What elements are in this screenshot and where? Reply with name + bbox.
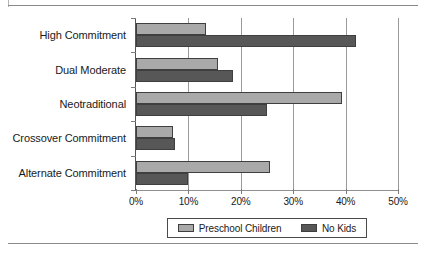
x-tick-4: [346, 189, 347, 194]
y-tick-0: [131, 18, 136, 19]
bar-1-0[interactable]: [136, 58, 218, 70]
legend-label-1: No Kids: [322, 223, 356, 234]
x-tick-2: [241, 189, 242, 194]
bar-4-1[interactable]: [136, 173, 188, 185]
bar-1-1[interactable]: [136, 70, 233, 82]
figure-top-rule: [8, 5, 418, 6]
y-tick-3: [131, 121, 136, 122]
x-axis-line: [135, 190, 399, 191]
legend-label-0: Preschool Children: [199, 223, 282, 234]
x-gridline-5: [398, 18, 399, 190]
category-label-3: Crossover Commitment: [12, 132, 126, 144]
x-tick-0: [136, 189, 137, 194]
figure-bottom-rule: [8, 243, 418, 244]
chart-legend: Preschool Children No Kids: [167, 218, 367, 238]
x-tick-label-2: 20%: [221, 196, 261, 207]
x-tick-label-4: 40%: [326, 196, 366, 207]
bar-0-0[interactable]: [136, 23, 206, 35]
plot-area: [136, 18, 398, 190]
legend-swatch-icon-0: [178, 224, 194, 232]
x-tick-5: [398, 189, 399, 194]
category-label-1: Dual Moderate: [55, 64, 126, 76]
y-tick-2: [131, 87, 136, 88]
y-tick-4: [131, 156, 136, 157]
category-label-2: Neotraditional: [60, 98, 126, 110]
category-axis-labels: High CommitmentDual ModerateNeotradition…: [0, 18, 130, 190]
legend-swatch-icon-1: [301, 224, 317, 232]
category-label-4: Alternate Commitment: [19, 167, 126, 179]
bar-3-0[interactable]: [136, 126, 173, 138]
x-tick-3: [293, 189, 294, 194]
category-label-0: High Commitment: [39, 29, 126, 41]
chart-figure: High CommitmentDual ModerateNeotradition…: [0, 0, 426, 255]
bar-2-1[interactable]: [136, 104, 267, 116]
bar-3-1[interactable]: [136, 138, 175, 150]
x-tick-label-5: 50%: [378, 196, 418, 207]
bar-2-0[interactable]: [136, 92, 342, 104]
legend-item-1[interactable]: No Kids: [301, 223, 356, 234]
bar-0-1[interactable]: [136, 35, 356, 47]
bar-4-0[interactable]: [136, 161, 270, 173]
y-tick-1: [131, 52, 136, 53]
y-tick-end: [131, 190, 136, 191]
x-tick-label-3: 30%: [273, 196, 313, 207]
legend-item-0[interactable]: Preschool Children: [178, 223, 282, 234]
x-tick-label-1: 10%: [168, 196, 208, 207]
x-tick-label-0: 0%: [116, 196, 156, 207]
x-tick-1: [188, 189, 189, 194]
